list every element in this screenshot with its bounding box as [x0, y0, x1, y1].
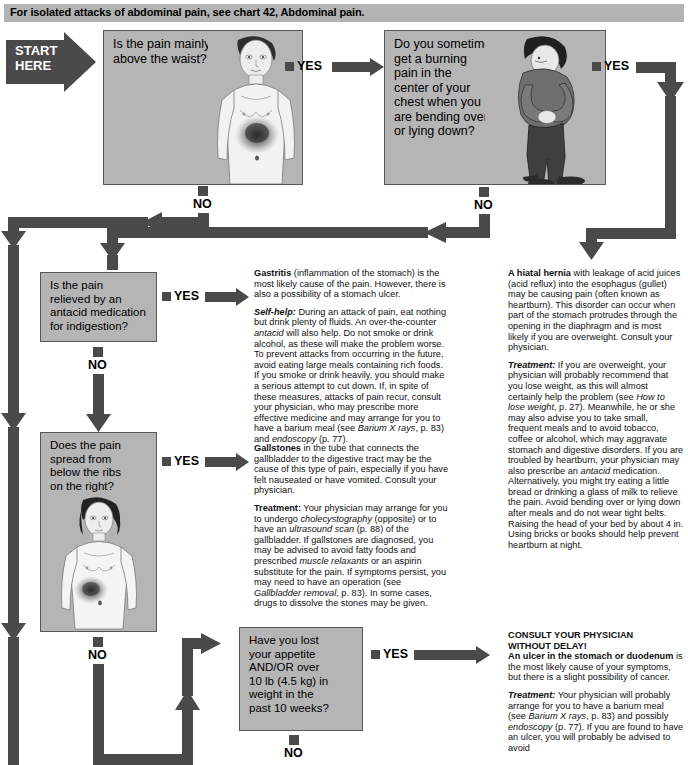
connector-vertical	[8, 245, 19, 287]
advice-gallstones: Gallstones in the tube that connects the…	[254, 443, 450, 616]
connector-horizontal	[442, 227, 490, 238]
yes-label: YES	[174, 289, 199, 303]
no-marker-square	[479, 187, 489, 197]
question-box-appetite-weight-loss[interactable]: Have you lost your appetite AND/OR over …	[239, 627, 363, 731]
gallstones-lead: Gallstones in the tube that connects the…	[254, 443, 450, 496]
no-marker-square	[289, 735, 299, 745]
gallstones-title: Gallstones	[254, 443, 301, 453]
yes-label: YES	[383, 647, 408, 661]
gastritis-lead: Gastritis (inflammation of the stomach) …	[254, 268, 450, 300]
connector-vertical	[93, 664, 104, 765]
treatment-label: Treatment:	[508, 690, 555, 700]
arrow-down	[579, 242, 604, 260]
no-label: NO	[474, 198, 493, 212]
no-label: NO	[88, 358, 107, 372]
barium-xrays-ref: Barium X rays	[528, 711, 586, 721]
no-label: NO	[88, 648, 107, 662]
banner-text: For isolated attacks of abdominal pain, …	[10, 6, 365, 18]
chart-header-banner: For isolated attacks of abdominal pain, …	[4, 4, 684, 22]
yes-label: YES	[604, 59, 629, 73]
yes-marker-square	[162, 292, 171, 301]
connector-horizontal	[93, 754, 193, 765]
no-label: NO	[193, 197, 212, 211]
hernia-title: A hiatal hernia	[508, 268, 571, 278]
selfhelp-text-2: will also help. Do not smoke or drink al…	[254, 328, 444, 433]
connector-vertical-left-rail	[8, 287, 19, 417]
yes-arrow-right	[414, 646, 490, 664]
advice-hiatal-hernia: A hiatal hernia with leakage of acid jui…	[508, 268, 684, 557]
hernia-treatment: Treatment: If you are overweight, your p…	[508, 360, 684, 551]
question-text: Do you sometimes get a burning pain in t…	[394, 37, 498, 139]
connector-vertical-left-rail	[8, 427, 19, 627]
yes-arrow-right	[205, 453, 249, 471]
gastritis-selfhelp: Self-help: During an attack of pain, eat…	[254, 307, 450, 445]
ulcer-treatment: Treatment: Your physician will probably …	[508, 690, 684, 754]
treatment-text-3: medication. Alternatively, you might try…	[508, 466, 683, 550]
treatment-label: Treatment:	[254, 503, 301, 513]
hernia-lead-text: with leakage of acid juices (acid reflux…	[508, 268, 680, 352]
male-torso-chest-pain-figure	[208, 34, 303, 184]
standing-figure-abdomen-pain-figure	[51, 495, 149, 631]
question-box-antacid-relief[interactable]: Is the pain relieved by an antacid medic…	[40, 272, 157, 342]
connector-vertical-left-rail	[8, 637, 19, 765]
cholecystography-ref: cholecystography	[301, 514, 373, 524]
start-here-label: START HERE	[15, 43, 57, 73]
muscle-relaxants-ref: muscle relaxants	[299, 556, 368, 566]
question-box-burning-chest-pain[interactable]: Do you sometimes get a burning pain in t…	[384, 30, 606, 185]
ultrasound-scan-ref: ultrasound scan	[289, 524, 354, 534]
hernia-lead: A hiatal hernia with leakage of acid jui…	[508, 268, 684, 353]
connector-vertical	[107, 255, 118, 270]
yes-marker-square	[592, 62, 601, 71]
treatment-text-2: , p. 83) and possibly	[586, 711, 668, 721]
connector-vertical	[182, 706, 193, 765]
question-text: Does the pain spread from below the ribs…	[50, 439, 121, 493]
yes-arrow-right	[332, 58, 384, 76]
question-box-pain-below-ribs[interactable]: Does the pain spread from below the ribs…	[40, 432, 157, 632]
gastritis-title: Gastritis	[254, 268, 291, 278]
yes-label: YES	[174, 454, 199, 468]
connector-vertical	[665, 96, 676, 236]
question-text: Is the pain mainly above the waist?	[113, 37, 210, 66]
endoscopy-ref: endoscopy	[508, 722, 552, 732]
gallbladder-removal-ref: Gallbladder removal	[254, 588, 336, 598]
yes-arrow-right	[205, 288, 249, 306]
yes-marker-square	[285, 62, 294, 71]
antacid-term: antacid	[581, 466, 611, 476]
connector-vertical	[93, 374, 104, 418]
question-text: Is the pain relieved by an antacid medic…	[50, 279, 146, 333]
advice-ulcer: CONSULT YOUR PHYSICIANWITHOUT DELAY! An …	[508, 630, 684, 761]
ulcer-lead: An ulcer in the stomach or duodenum is t…	[508, 651, 684, 683]
question-box-pain-above-waist[interactable]: Is the pain mainly above the waist?	[103, 30, 303, 185]
start-here-arrow: START HERE	[6, 32, 96, 92]
no-marker-square	[93, 347, 103, 357]
connector-horizontal	[586, 228, 676, 239]
ulcer-title: An ulcer in the stomach or duodenum	[508, 651, 673, 661]
yes-marker-square	[162, 457, 171, 466]
yes-label: YES	[297, 59, 322, 73]
question-text: Have you lost your appetite AND/OR over …	[249, 634, 329, 715]
selfhelp-label: Self-help:	[254, 307, 296, 317]
ulcer-alert: CONSULT YOUR PHYSICIANWITHOUT DELAY!	[508, 630, 684, 651]
treatment-text-2: , p. 27). Meanwhile, he or she may also …	[508, 402, 683, 476]
no-marker-square	[198, 186, 208, 196]
barium-xrays-ref: Barium X rays	[358, 423, 416, 433]
man-bending-clutching-chest-figure	[485, 33, 605, 185]
alert-line-2: WITHOUT DELAY!	[508, 641, 587, 651]
advice-gastritis: Gastritis (inflammation of the stomach) …	[254, 268, 450, 452]
connector-horizontal	[118, 227, 428, 238]
no-label: NO	[284, 746, 303, 760]
yes-marker-square	[371, 650, 380, 659]
alert-line-1: CONSULT YOUR PHYSICIAN	[508, 630, 633, 640]
no-marker-square	[93, 637, 103, 647]
arrow-right	[201, 633, 221, 654]
arrow-down	[86, 414, 111, 432]
gallstones-treatment: Treatment: Your physician may arrange fo…	[254, 503, 450, 609]
antacid-term: antacid	[254, 328, 284, 338]
treatment-label: Treatment:	[508, 360, 555, 370]
